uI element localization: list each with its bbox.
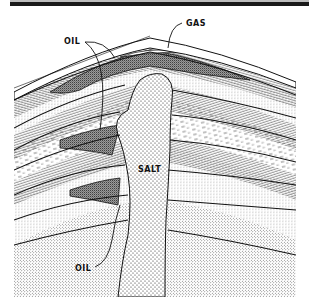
salt-dome-cross-section: GAS OIL SALT OIL xyxy=(0,0,309,297)
label-gas: GAS xyxy=(186,19,206,28)
label-salt: SALT xyxy=(138,165,161,174)
label-oil-top: OIL xyxy=(64,37,80,46)
label-oil-bottom: OIL xyxy=(75,264,91,273)
header-rule xyxy=(10,0,309,6)
